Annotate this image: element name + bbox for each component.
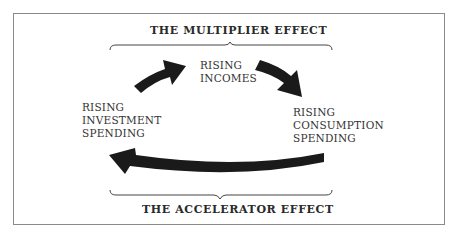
multiplier-effect-title: THE MULTIPLIER EFFECT — [150, 24, 327, 37]
node-rising-investment-spending: RISING INVESTMENT SPENDING — [82, 101, 161, 140]
accelerator-effect-title: THE ACCELERATOR EFFECT — [142, 203, 334, 216]
node-rising-incomes: RISING INCOMES — [200, 59, 257, 85]
multiplier-brace — [110, 42, 332, 50]
arrow-consumption-to-investment — [109, 148, 324, 174]
arrow-incomes-to-consumption — [255, 60, 302, 97]
arrow-investment-to-incomes — [134, 60, 186, 93]
accelerator-brace — [110, 190, 332, 199]
node-rising-consumption-spending: RISING CONSUMPTION SPENDING — [293, 106, 384, 145]
